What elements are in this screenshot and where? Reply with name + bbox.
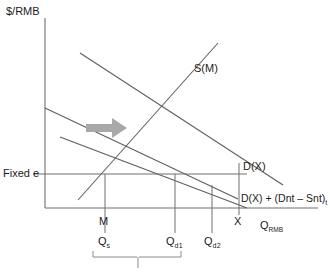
y-axis-label: $/RMB	[6, 6, 40, 17]
right-arrow-icon	[86, 118, 127, 138]
quantity-label-qd2-text: Q	[204, 235, 213, 247]
curve-label-demand: D(X)	[243, 161, 266, 172]
quantity-label-qd2-subscript: d2	[213, 242, 221, 249]
figure-canvas: $/RMB QRMB S(M) D(X) D(X) + (Dnt – Snt)t…	[0, 0, 330, 272]
demand-curve-shifted-upper	[45, 108, 238, 199]
tick-label-m: M	[99, 216, 108, 227]
quantity-label-qs-subscript: s	[107, 242, 111, 249]
x-axis-label-text: Q	[260, 219, 269, 231]
curve-label-demand-shifted: D(X) + (Dnt – Snt)t	[241, 193, 327, 206]
quantity-label-qd1: Qd1	[166, 236, 183, 249]
curve-label-demand-shifted-text: D(X) + (Dnt – Snt)	[241, 192, 325, 204]
demand-curve-shifted-lower	[60, 137, 247, 208]
quantity-label-qs: Qs	[98, 236, 110, 249]
x-axis-label-subscript: RMB	[269, 226, 283, 233]
quantity-label-qd1-text: Q	[166, 235, 175, 247]
quantity-label-qd1-subscript: d1	[175, 242, 183, 249]
quantity-gap-brace	[93, 251, 181, 268]
fixed-exchange-rate-label: Fixed e	[3, 168, 39, 179]
quantity-label-qs-text: Q	[98, 235, 107, 247]
curve-label-supply: S(M)	[194, 63, 218, 74]
quantity-label-qd2: Qd2	[204, 236, 221, 249]
tick-label-x: X	[234, 216, 241, 227]
x-axis-label: QRMB	[260, 220, 283, 234]
curve-label-demand-shifted-subscript: t	[325, 199, 327, 206]
